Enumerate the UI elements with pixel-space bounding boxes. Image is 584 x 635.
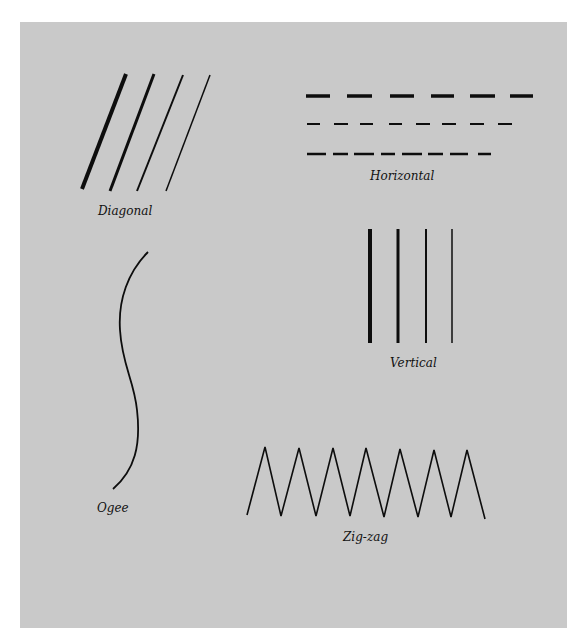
horizontal-dashed-lines [306,96,533,154]
vertical-label: Vertical [390,356,437,370]
ogee-label: Ogee [97,501,129,515]
horizontal-label: Horizontal [370,169,434,183]
line-styles-diagram [0,0,584,635]
vertical-lines [370,229,452,343]
diagonal-lines [82,74,210,191]
diagonal-label: Diagonal [98,204,152,218]
zigzag-label: Zig-zag [343,530,388,544]
ogee-curve [113,252,148,489]
zigzag-line [247,447,485,519]
